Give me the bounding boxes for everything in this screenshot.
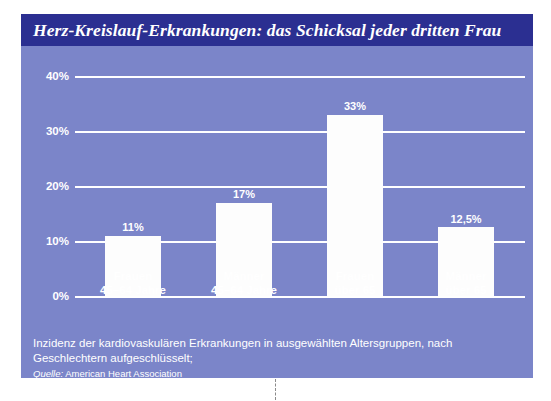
bars-layer: 11% Frauen 45–64 Jahre 17% Männer 45–64 … xyxy=(75,46,525,328)
bar-value-label: 17% xyxy=(191,189,297,200)
ytick-label-10: 10% xyxy=(21,236,69,248)
fold-crease-mark xyxy=(275,379,276,400)
bar-value-label: 11% xyxy=(80,222,186,233)
category-label: Männer 45–64 Jahre xyxy=(191,269,297,297)
source-label: Quelle: xyxy=(33,368,63,378)
category-label-line2: über 65 xyxy=(446,284,487,296)
category-label-line1: Frauen xyxy=(114,270,152,282)
ytick-label-30: 30% xyxy=(21,126,69,138)
chart-card: Herz-Kreislauf-Erkrankungen: das Schicks… xyxy=(21,14,533,378)
ytick-label-20: 20% xyxy=(21,181,69,193)
bar-value-label: 33% xyxy=(302,101,408,112)
ytick-label-40: 40% xyxy=(21,71,69,83)
bar-value-label: 12,5% xyxy=(413,214,519,225)
category-label-line2: 45–64 Jahre xyxy=(211,284,277,296)
source-value: American Heart Association xyxy=(63,368,182,378)
category-label: Frauen über 65 xyxy=(302,269,408,297)
footnote-source: Quelle: American Heart Association xyxy=(33,367,521,378)
category-label-line1: Männer xyxy=(224,270,265,282)
category-label-line1: Männer xyxy=(446,270,487,282)
category-label-line1: Frauen xyxy=(336,270,374,282)
footnote-description: Inzidenz der kardiovaskulären Erkrankung… xyxy=(33,336,493,366)
plot-area: 40% 30% 20% 10% 0% 11% Frauen 45–64 Jahr… xyxy=(21,46,533,328)
category-label-line2: über 65 xyxy=(335,284,376,296)
category-label-line2: 45–64 Jahre xyxy=(100,284,166,296)
ytick-label-0: 0% xyxy=(21,291,69,303)
footnote: Inzidenz der kardiovaskulären Erkrankung… xyxy=(33,336,521,378)
page-title: Herz-Kreislauf-Erkrankungen: das Schicks… xyxy=(21,20,501,41)
category-label: Männer über 65 xyxy=(413,269,519,297)
category-label: Frauen 45–64 Jahre xyxy=(80,269,186,297)
chart-title-bar: Herz-Kreislauf-Erkrankungen: das Schicks… xyxy=(21,14,533,46)
